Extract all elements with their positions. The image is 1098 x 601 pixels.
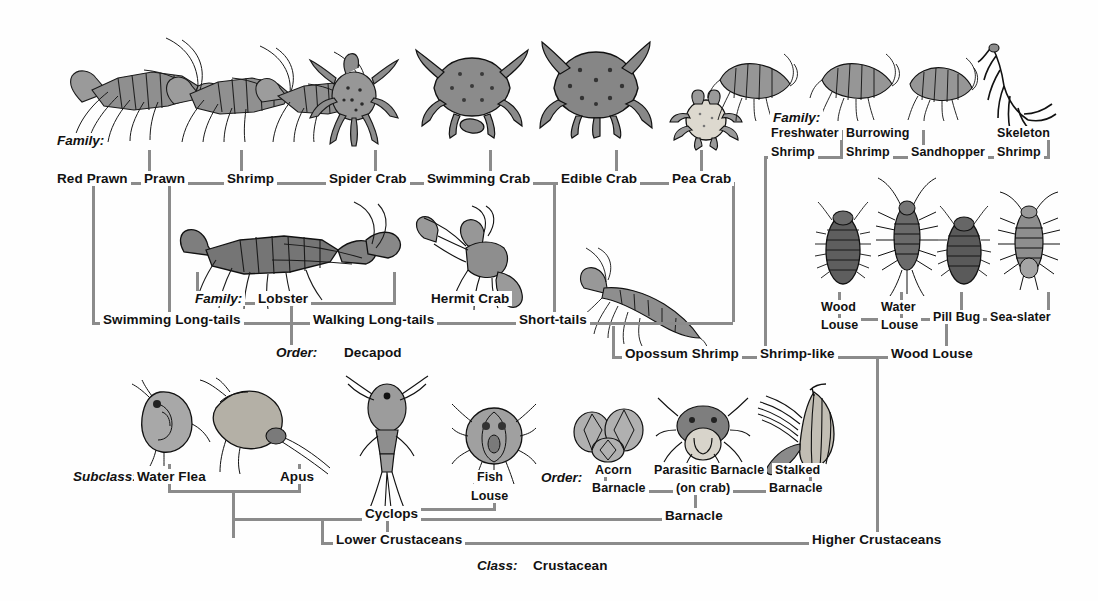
label-burrowing-shrimp-line1: Burrowing	[843, 126, 912, 140]
label-parasitic-barnacle-line1: Parasitic Barnacle	[651, 463, 767, 477]
skeleton-shrimp-illustration	[972, 38, 1060, 132]
label-class-crustacean: Crustacean	[530, 558, 611, 573]
label-edible-crab: Edible Crab	[558, 171, 640, 186]
rank-class: Class:	[474, 558, 521, 573]
spider-crab-illustration	[306, 38, 402, 148]
rank-family-decapod: Family:	[192, 291, 245, 306]
rank-subclass: Subclass:	[70, 469, 140, 484]
label-sea-slater: Sea-slater	[987, 310, 1054, 324]
acorn-barnacle-illustration	[570, 404, 646, 462]
connector-swimming-longtails-riser	[92, 182, 95, 322]
label-wood-louse-line2: Louse	[818, 318, 861, 332]
label-water-louse-line2: Louse	[878, 318, 921, 332]
sea-slater-illustration	[996, 190, 1062, 294]
label-prawn: Prawn	[141, 171, 188, 186]
connector-prawn-group-riser	[168, 182, 171, 322]
wood-louse-illustration	[812, 196, 874, 296]
connector-shrimplike-riser	[764, 156, 767, 356]
label-shrimp: Shrimp	[224, 171, 277, 186]
label-walking-long-tails: Walking Long-tails	[310, 312, 437, 327]
connector-crab-group-riser	[732, 182, 735, 322]
label-red-prawn: Red Prawn	[54, 171, 131, 186]
connector-lower-crustaceans-bus	[232, 518, 695, 521]
label-barnacle-order: Barnacle	[662, 508, 726, 523]
connector-opossum-shrimp-stem	[612, 326, 615, 356]
swimming-crab-illustration	[414, 36, 530, 140]
sandhopper-illustration	[896, 48, 980, 122]
label-opossum-shrimp: Opossum Shrimp	[622, 346, 742, 361]
connector-lower-crustaceans-drop	[321, 518, 324, 542]
rank-family-right: Family:	[770, 110, 823, 125]
label-water-louse-line1: Water	[878, 300, 919, 314]
label-shrimp-like: Shrimp-like	[757, 346, 838, 361]
label-higher-crustaceans: Higher Crustaceans	[809, 532, 944, 547]
connector-higher-crustaceans-riser	[876, 356, 879, 542]
apus-illustration	[196, 378, 332, 478]
connector-hermit-crab-stem	[393, 272, 396, 302]
label-fish-louse-line2: Louse	[468, 489, 511, 503]
label-stalked-barnacle-line2: Barnacle	[766, 481, 826, 495]
cyclops-illustration	[344, 374, 430, 510]
label-skeleton-shrimp-line2: Shrimp	[994, 145, 1044, 159]
rank-order-barnacle: Order:	[538, 470, 585, 485]
pill-bug-illustration	[936, 202, 992, 294]
label-pea-crab: Pea Crab	[669, 171, 734, 186]
opossum-shrimp-illustration	[560, 246, 710, 354]
label-decapod: Decapod	[341, 345, 405, 360]
label-freshwater-shrimp-line2: Shrimp	[768, 145, 818, 159]
label-swimming-long-tails: Swimming Long-tails	[100, 312, 244, 327]
label-cyclops: Cyclops	[362, 506, 421, 521]
edible-crab-illustration	[538, 34, 654, 140]
label-wood-louse-order: Wood Louse	[888, 346, 976, 361]
label-stalked-barnacle-line1: Stalked	[772, 463, 823, 477]
label-spider-crab: Spider Crab	[326, 171, 410, 186]
rank-family-left: Family:	[54, 133, 107, 148]
label-hermit-crab: Hermit Crab	[428, 291, 512, 306]
rank-order-decapod: Order:	[273, 345, 320, 360]
water-louse-illustration	[872, 176, 942, 300]
label-wood-louse-line1: Wood	[818, 300, 859, 314]
label-water-flea: Water Flea	[134, 469, 209, 484]
label-acorn-barnacle-line2: Barnacle	[589, 481, 649, 495]
label-parasitic-barnacle-line2: (on crab)	[673, 481, 733, 495]
label-swimming-crab: Swimming Crab	[424, 171, 533, 186]
label-skeleton-shrimp-line1: Skeleton	[994, 126, 1053, 140]
label-freshwater-shrimp-line1: Freshwater	[768, 126, 842, 140]
label-apus: Apus	[277, 469, 317, 484]
crustacean-classification-chart: Family: Red Prawn Prawn Shrimp Spider Cr…	[0, 0, 1098, 601]
label-burrowing-shrimp-line2: Shrimp	[843, 145, 893, 159]
connector-branchiopod-drop	[232, 490, 235, 538]
parasitic-barnacle-illustration	[654, 396, 752, 466]
label-sandhopper: Sandhopper	[908, 145, 988, 159]
label-acorn-barnacle-line1: Acorn	[592, 463, 635, 477]
connector-shorttails-riser	[553, 182, 556, 322]
label-short-tails: Short-tails	[516, 312, 590, 327]
label-lobster: Lobster	[255, 291, 311, 306]
label-fish-louse-line1: Fish	[474, 470, 506, 484]
label-pill-bug: Pill Bug	[930, 310, 983, 324]
label-lower-crustaceans: Lower Crustaceans	[333, 532, 465, 547]
